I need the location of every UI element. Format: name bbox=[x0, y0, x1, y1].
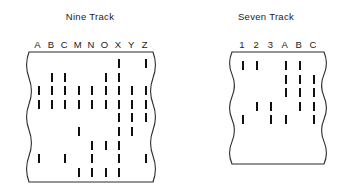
tape-body-nine-track bbox=[29, 52, 153, 182]
tape-mark bbox=[285, 115, 287, 124]
tape-mark bbox=[91, 86, 93, 95]
panel-title-nine-track: Nine Track bbox=[10, 11, 170, 22]
tape-mark bbox=[118, 154, 120, 163]
tape-mark bbox=[285, 61, 287, 70]
tape-mark bbox=[242, 61, 244, 70]
tape-mark bbox=[105, 168, 107, 177]
column-label-seven-track-3: 3 bbox=[263, 39, 277, 50]
tape-mark bbox=[118, 141, 120, 150]
tape-mark bbox=[256, 102, 258, 111]
tape-mark bbox=[64, 86, 66, 95]
tape-mark bbox=[285, 75, 287, 84]
tape-mark bbox=[285, 88, 287, 97]
tape-mark bbox=[131, 113, 133, 122]
tape-mark bbox=[78, 127, 80, 136]
tape-mark bbox=[91, 168, 93, 177]
tape-mark bbox=[299, 75, 301, 84]
tape-mark bbox=[78, 168, 80, 177]
tape-mark bbox=[313, 75, 315, 84]
column-label-seven-track-2: 2 bbox=[249, 39, 263, 50]
column-label-nine-track-B: B bbox=[44, 39, 57, 50]
column-labels-nine-track: ABCMNOXYZ bbox=[31, 39, 152, 50]
column-label-seven-track-A: A bbox=[277, 39, 291, 50]
tape-mark bbox=[313, 115, 315, 124]
tape-mark bbox=[256, 61, 258, 70]
tape-mark bbox=[118, 86, 120, 95]
tape-mark bbox=[299, 88, 301, 97]
column-label-seven-track-B: B bbox=[292, 39, 306, 50]
column-label-nine-track-Z: Z bbox=[138, 39, 151, 50]
tape-mark bbox=[91, 141, 93, 150]
tape-mark bbox=[299, 61, 301, 70]
tape-mark bbox=[131, 100, 133, 109]
column-label-nine-track-A: A bbox=[31, 39, 44, 50]
tape-mark bbox=[64, 73, 66, 82]
column-labels-seven-track: 123ABC bbox=[235, 39, 320, 50]
tape-mark bbox=[38, 154, 40, 163]
tape-mark bbox=[145, 86, 147, 95]
tape-mark bbox=[105, 100, 107, 109]
panel-nine-track: Nine Track ABCMNOXYZ bbox=[10, 0, 170, 195]
tape-body-seven-track bbox=[232, 52, 324, 164]
mark-grid-seven-track bbox=[232, 52, 324, 164]
tape-mark bbox=[118, 59, 120, 68]
tape-mark bbox=[105, 73, 107, 82]
column-label-nine-track-M: M bbox=[71, 39, 84, 50]
tape-mark bbox=[105, 141, 107, 150]
tape-mark bbox=[118, 168, 120, 177]
tape-mark bbox=[38, 86, 40, 95]
tape-mark bbox=[145, 100, 147, 109]
tape-mark bbox=[118, 113, 120, 122]
tape-mark bbox=[131, 127, 133, 136]
tape-mark bbox=[145, 154, 147, 163]
tape-mark bbox=[78, 100, 80, 109]
tape-mark bbox=[270, 115, 272, 124]
tape-mark bbox=[299, 102, 301, 111]
tape-mark bbox=[51, 73, 53, 82]
tape-mark bbox=[242, 115, 244, 124]
tape-mark bbox=[38, 100, 40, 109]
panel-seven-track: Seven Track 123ABC bbox=[186, 0, 346, 195]
diagram-canvas: Nine Track ABCMNOXYZ Seven Track 123ABC bbox=[0, 0, 349, 195]
column-label-seven-track-C: C bbox=[306, 39, 320, 50]
column-label-nine-track-C: C bbox=[58, 39, 71, 50]
column-label-nine-track-N: N bbox=[84, 39, 97, 50]
tape-mark bbox=[118, 73, 120, 82]
tape-mark bbox=[118, 127, 120, 136]
column-label-nine-track-O: O bbox=[98, 39, 111, 50]
tape-mark bbox=[131, 86, 133, 95]
tape-mark bbox=[51, 86, 53, 95]
column-label-nine-track-Y: Y bbox=[125, 39, 138, 50]
tape-mark bbox=[64, 100, 66, 109]
tape-mark bbox=[270, 102, 272, 111]
column-label-nine-track-X: X bbox=[111, 39, 124, 50]
mark-grid-nine-track bbox=[29, 52, 153, 182]
tape-mark bbox=[313, 102, 315, 111]
tape-mark bbox=[145, 113, 147, 122]
tape-mark bbox=[51, 100, 53, 109]
panel-title-seven-track: Seven Track bbox=[186, 11, 346, 22]
tape-mark bbox=[145, 59, 147, 68]
tape-mark bbox=[91, 100, 93, 109]
tape-mark bbox=[105, 86, 107, 95]
tape-mark bbox=[118, 100, 120, 109]
tape-mark bbox=[64, 154, 66, 163]
tape-mark bbox=[313, 88, 315, 97]
tape-mark bbox=[78, 86, 80, 95]
column-label-seven-track-1: 1 bbox=[235, 39, 249, 50]
tape-mark bbox=[91, 154, 93, 163]
